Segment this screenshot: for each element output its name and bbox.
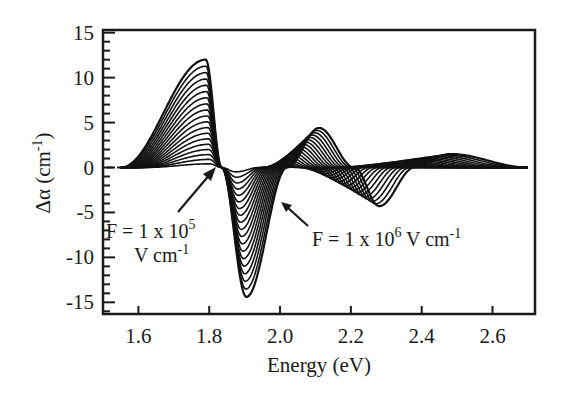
annotation-high-tail: V cm bbox=[401, 228, 450, 250]
annotation-high-sup: 6 bbox=[394, 225, 401, 240]
y-tick-label: 5 bbox=[84, 111, 95, 135]
y-axis-title-sup: -1 bbox=[30, 139, 45, 151]
y-tick-label: 0 bbox=[84, 156, 95, 180]
curve-family bbox=[121, 60, 528, 297]
arrow-low-field-shaft bbox=[178, 173, 211, 212]
y-axis-ticks bbox=[103, 33, 115, 312]
x-axis-title: Energy (eV) bbox=[267, 353, 371, 377]
x-tick-label: 2.0 bbox=[267, 324, 293, 348]
annotation-low-line1: F = 1 x 10 bbox=[106, 220, 188, 242]
x-tick-label: 2.6 bbox=[479, 324, 505, 348]
y-axis-title: Δα (cm-1) bbox=[30, 132, 55, 213]
arrow-high-field-shaft bbox=[287, 207, 308, 226]
y-tick-label: -10 bbox=[66, 245, 94, 269]
annotation-low-field: F = 1 x 105 V cm-1 bbox=[106, 167, 216, 266]
y-axis-title-main: Δα (cm bbox=[31, 151, 55, 213]
annotation-low-sup2: -1 bbox=[178, 242, 190, 257]
x-tick-label: 1.6 bbox=[125, 324, 151, 348]
x-axis-tick-labels: 1.61.82.02.22.42.6 bbox=[125, 324, 505, 348]
annotation-high-text: F = 1 x 10 bbox=[312, 228, 394, 250]
x-tick-label: 2.4 bbox=[409, 324, 436, 348]
y-axis-tick-labels: 151050-5-10-15 bbox=[66, 21, 94, 315]
svg-text:V cm-1: V cm-1 bbox=[134, 242, 189, 266]
y-tick-label: -5 bbox=[77, 200, 95, 224]
y-tick-label: 15 bbox=[73, 21, 94, 45]
annotation-low-sup1: 5 bbox=[188, 217, 195, 232]
annotation-low-line2: V cm bbox=[134, 244, 178, 266]
y-tick-label: -15 bbox=[66, 290, 94, 314]
annotation-high-sup2: -1 bbox=[450, 226, 462, 241]
series-line bbox=[121, 139, 528, 202]
x-tick-label: 1.8 bbox=[196, 324, 222, 348]
annotation-high-field: F = 1 x 106 V cm-1 bbox=[281, 202, 461, 250]
svg-text:Δα (cm-1): Δα (cm-1) bbox=[30, 132, 55, 213]
x-tick-label: 2.2 bbox=[338, 324, 364, 348]
svg-text:F = 1 x 106 V cm-1: F = 1 x 106 V cm-1 bbox=[312, 225, 461, 250]
svg-text:F = 1 x 105: F = 1 x 105 bbox=[106, 217, 195, 242]
series-line bbox=[121, 60, 528, 297]
electroabsorption-chart: 151050-5-10-15 1.61.82.02.22.42.6 Energy… bbox=[0, 0, 565, 397]
y-tick-label: 10 bbox=[73, 66, 94, 90]
y-axis-title-end: ) bbox=[31, 132, 55, 139]
